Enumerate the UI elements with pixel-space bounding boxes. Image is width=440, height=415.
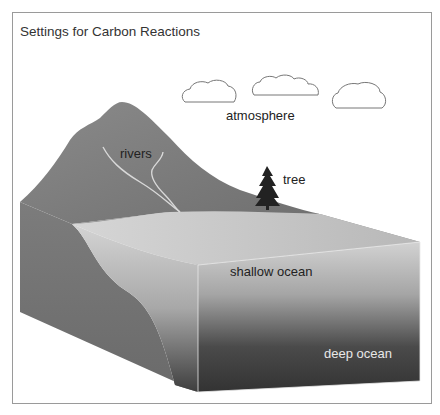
atmosphere-label: atmosphere [226,108,295,123]
cloud-icon [252,75,318,95]
tree-icon [255,166,280,210]
rivers-label: rivers [120,146,152,161]
tree-label: tree [283,172,305,187]
deep-ocean-label: deep ocean [324,346,392,361]
cloud-icon [332,82,385,108]
shallow-ocean-label: shallow ocean [230,264,312,279]
cloud-icon [182,80,236,102]
